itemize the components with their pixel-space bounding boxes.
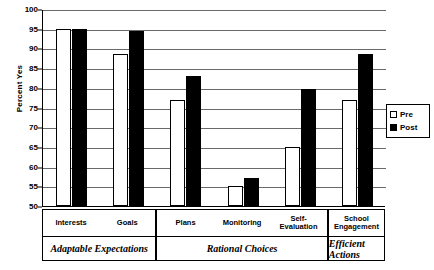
legend-label: Post: [400, 124, 417, 132]
y-tick-label: 90: [16, 45, 38, 53]
y-tick-mark: [38, 187, 42, 188]
subcategory-row: InterestsGoals: [43, 210, 155, 237]
y-tick-label: 75: [16, 105, 38, 113]
bar-pre: [228, 186, 243, 206]
bar-group: [157, 9, 214, 206]
bar-group: [272, 9, 329, 206]
subcategory-row: School Engagement: [329, 210, 384, 237]
legend-swatch-pre: [390, 111, 397, 118]
bar-post: [244, 178, 259, 206]
y-tick-mark: [38, 88, 42, 89]
bar-group: [100, 9, 157, 206]
y-tick-mark: [38, 147, 42, 148]
y-tick-mark: [38, 29, 42, 30]
bar-post: [186, 76, 201, 206]
bar-post: [72, 29, 87, 206]
plot-area: [42, 10, 385, 207]
bar-post: [301, 89, 316, 206]
y-tick-label: 100: [16, 6, 38, 14]
y-tick-label: 60: [16, 164, 38, 172]
group-label: Rational Choices: [157, 237, 327, 260]
y-tick-label: 65: [16, 144, 38, 152]
subcategory-label: Goals: [99, 210, 155, 236]
y-tick-label: 50: [16, 203, 38, 211]
subcategory-label: Plans: [157, 210, 214, 236]
y-tick-label: 95: [16, 26, 38, 34]
y-tick-label: 85: [16, 65, 38, 73]
subcategory-label: Self-Evaluation: [270, 210, 327, 236]
y-tick-label: 55: [16, 183, 38, 191]
group-box: School EngagementEfficient Actions: [328, 209, 385, 261]
group-label: Efficient Actions: [329, 237, 384, 260]
group-box: InterestsGoalsAdaptable Expectations: [42, 209, 156, 261]
bar-group: [329, 9, 386, 206]
y-tick-mark: [38, 69, 42, 70]
y-tick-mark: [38, 128, 42, 129]
subcategory-label: Interests: [43, 210, 99, 236]
bar-chart: Percent Yes 10095908580757065605550 PreP…: [0, 0, 434, 270]
legend-swatch-post: [390, 124, 397, 131]
bar-pre: [342, 100, 357, 206]
legend-label: Pre: [400, 111, 413, 119]
legend-item-pre[interactable]: Pre: [390, 108, 429, 121]
y-tick-mark: [38, 108, 42, 109]
bar-group: [215, 9, 272, 206]
y-axis-ticks: 10095908580757065605550: [16, 0, 38, 220]
category-label-table: InterestsGoalsAdaptable ExpectationsPlan…: [42, 209, 385, 261]
subcategory-row: PlansMonitoringSelf-Evaluation: [157, 210, 327, 237]
bar-pre: [56, 29, 71, 206]
subcategory-label: Monitoring: [214, 210, 271, 236]
y-tick-mark: [38, 167, 42, 168]
group-label: Adaptable Expectations: [43, 237, 155, 260]
y-tick-mark: [38, 207, 42, 208]
bar-series-container: [43, 9, 386, 206]
y-tick-mark: [38, 49, 42, 50]
group-box: PlansMonitoringSelf-EvaluationRational C…: [156, 209, 328, 261]
bar-post: [358, 54, 373, 206]
bar-group: [43, 9, 100, 206]
y-tick-label: 70: [16, 124, 38, 132]
y-tick-label: 80: [16, 85, 38, 93]
bar-pre: [113, 54, 128, 206]
legend-item-post[interactable]: Post: [390, 121, 429, 134]
legend: PrePost: [386, 104, 430, 138]
bar-pre: [170, 100, 185, 206]
bar-post: [129, 31, 144, 206]
bar-pre: [285, 147, 300, 206]
y-tick-mark: [38, 10, 42, 11]
subcategory-label: School Engagement: [329, 210, 384, 236]
